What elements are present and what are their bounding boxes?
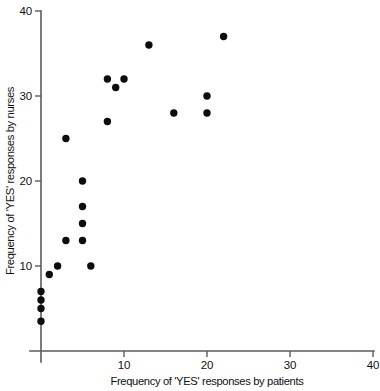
- data-point: [37, 288, 44, 295]
- data-point: [54, 262, 61, 269]
- data-point: [87, 262, 94, 269]
- y-tick-label-30: 30: [20, 90, 32, 102]
- x-tick-group: [124, 351, 373, 357]
- x-tick-label-10: 10: [118, 359, 130, 371]
- data-point: [203, 92, 210, 99]
- x-axis-title: Frequency of 'YES' responses by patients: [110, 375, 304, 387]
- x-tick-label-30: 30: [284, 359, 296, 371]
- y-axis-title: Frequency of 'YES' responses by nurses: [4, 86, 16, 275]
- data-point: [104, 118, 111, 125]
- scatter-plot-figure: 10203040 10203040 Frequency of 'YES' res…: [0, 0, 380, 391]
- data-point: [62, 135, 69, 142]
- data-point: [120, 75, 127, 82]
- x-tick-label-group: 10203040: [118, 359, 379, 371]
- data-point: [46, 271, 53, 278]
- data-point: [79, 220, 86, 227]
- x-tick-label-40: 40: [367, 359, 379, 371]
- data-point: [37, 305, 44, 312]
- data-point: [37, 296, 44, 303]
- y-tick-label-40: 40: [20, 5, 32, 17]
- x-tick-label-20: 20: [201, 359, 213, 371]
- data-point: [203, 109, 210, 116]
- data-points-layer: [37, 33, 227, 325]
- y-tick-label-20: 20: [20, 175, 32, 187]
- data-point: [112, 84, 119, 91]
- y-tick-label-group: 10203040: [20, 5, 32, 272]
- data-point: [220, 33, 227, 40]
- data-point: [79, 203, 86, 210]
- y-tick-label-10: 10: [20, 260, 32, 272]
- data-point: [37, 318, 44, 325]
- data-point: [79, 177, 86, 184]
- plot-canvas: 10203040 10203040 Frequency of 'YES' res…: [0, 0, 380, 391]
- data-point: [170, 109, 177, 116]
- x-axis-group: 10203040: [30, 351, 379, 371]
- data-point: [62, 237, 69, 244]
- y-tick-group: [35, 11, 41, 266]
- data-point: [104, 75, 111, 82]
- data-point: [79, 237, 86, 244]
- data-point: [145, 41, 152, 48]
